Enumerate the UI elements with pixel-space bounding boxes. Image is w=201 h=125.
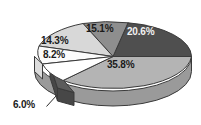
leader-line-6-0 xyxy=(47,96,57,107)
pie-chart: 20.6% 35.8% 6.0% 8.2% 14.3% 15.1% xyxy=(0,0,201,125)
pie-chart-graphic xyxy=(0,0,201,125)
